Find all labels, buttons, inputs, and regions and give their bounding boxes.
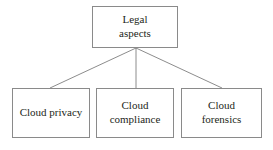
node-legal-aspects-label: Legal aspects bbox=[116, 13, 154, 41]
node-cloud-forensics-label: Cloud forensics bbox=[199, 99, 245, 127]
node-cloud-compliance-label: Cloud compliance bbox=[107, 99, 164, 127]
node-cloud-compliance: Cloud compliance bbox=[96, 88, 174, 138]
node-cloud-privacy: Cloud privacy bbox=[12, 88, 90, 138]
edge-root-to-cloud-forensics bbox=[136, 48, 222, 88]
node-legal-aspects: Legal aspects bbox=[92, 6, 178, 48]
node-cloud-forensics: Cloud forensics bbox=[181, 88, 262, 138]
edge-root-to-cloud-privacy bbox=[50, 48, 136, 88]
diagram-canvas: Legal aspects Cloud privacy Cloud compli… bbox=[0, 0, 273, 150]
node-cloud-privacy-label: Cloud privacy bbox=[17, 106, 86, 120]
